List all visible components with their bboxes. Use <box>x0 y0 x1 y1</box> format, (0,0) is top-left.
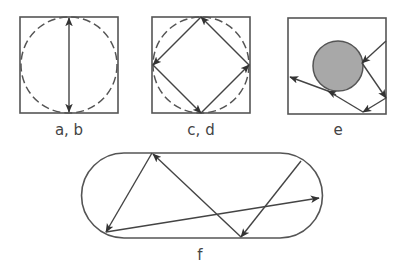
scatterer-circle <box>313 41 363 91</box>
panel-cd: c, d <box>152 17 250 139</box>
ray-segment <box>362 63 386 98</box>
ray-segment <box>106 198 319 232</box>
ray-segment <box>106 153 152 232</box>
dashed-circle <box>153 17 249 113</box>
ray-segment <box>241 161 301 237</box>
panel-label-ab: a, b <box>55 121 83 139</box>
ray-segment <box>153 154 241 237</box>
ray-arrow <box>328 91 336 95</box>
ray-segment <box>363 98 386 112</box>
billiard-diagram: a, b c, d e f <box>0 0 404 270</box>
panel-label-e: e <box>333 121 342 139</box>
stadium-boundary <box>82 153 323 238</box>
panel-ab: a, b <box>20 17 118 139</box>
panel-label-f: f <box>197 246 203 264</box>
ray-segment <box>201 17 249 65</box>
panel-label-cd: c, d <box>187 121 214 139</box>
panel-f: f <box>82 153 323 264</box>
ray-segment <box>153 17 201 65</box>
panel-e: e <box>288 18 386 139</box>
ray-segment <box>362 41 386 63</box>
